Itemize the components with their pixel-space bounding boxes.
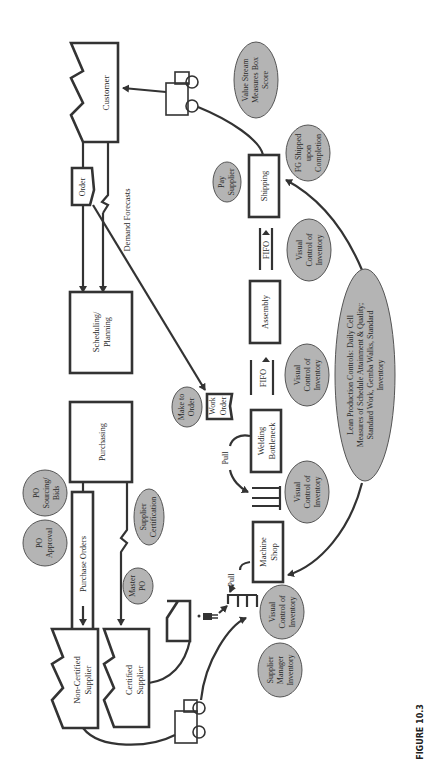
- svg-text:Assembly: Assembly: [260, 294, 270, 329]
- order-box: Order: [72, 168, 94, 205]
- svg-text:Visual: Visual: [295, 239, 304, 260]
- svg-text:Measures of Schedule Attainmen: Measures of Schedule Attainment & Qualit…: [356, 303, 365, 448]
- make-to-order-oval: Make to Order: [172, 387, 202, 427]
- svg-text:Inventory: Inventory: [313, 359, 322, 390]
- fg-shipped-oval: FG Shipped upon Completion: [286, 125, 330, 181]
- purchasing-box: Purchasing: [70, 402, 132, 482]
- machine-shop-box: Machine Shop: [253, 522, 283, 582]
- svg-text:Standard Work, Gemba Walks, St: Standard Work, Gemba Walks, Standard: [366, 310, 375, 439]
- master-po-line: [121, 482, 127, 625]
- svg-text:Control of: Control of: [305, 233, 314, 266]
- svg-text:Shipping: Shipping: [259, 170, 269, 201]
- svg-text:Work: Work: [208, 397, 217, 415]
- visual-control-oval-1: Visual Control of Inventory: [287, 219, 331, 281]
- kanban-post-icon: [167, 601, 190, 641]
- svg-text:Inventory: Inventory: [288, 596, 297, 627]
- svg-text:Lean Production Controls: Dail: Lean Production Controls: Daily Cell: [346, 314, 355, 435]
- svg-text:Scheduling/: Scheduling/: [91, 311, 101, 352]
- master-po-oval: Master PO: [123, 568, 153, 604]
- truck-icon: [166, 72, 198, 115]
- svg-text:Score: Score: [261, 70, 270, 89]
- svg-text:Purchase Orders: Purchase Orders: [78, 536, 88, 592]
- svg-text:Inventory: Inventory: [376, 359, 385, 390]
- po-sourcing-oval: PO Sourcing/ Bids: [23, 470, 67, 516]
- svg-text:Welding: Welding: [256, 426, 266, 455]
- svg-text:Purchasing: Purchasing: [97, 422, 107, 461]
- svg-text:Master: Master: [128, 575, 137, 598]
- svg-text:PO: PO: [138, 581, 147, 591]
- svg-text:FIFO: FIFO: [261, 241, 271, 259]
- svg-text:Value Stream: Value Stream: [241, 58, 250, 102]
- svg-text:Supplier: Supplier: [266, 656, 275, 683]
- pull-label-2: Pull: [227, 573, 236, 587]
- pull-label-1: Pull: [221, 451, 230, 465]
- value-stream-map-diagram: Customer Order Demand Forecasts Scheduli…: [0, 0, 427, 772]
- svg-text:Visual: Visual: [293, 364, 302, 385]
- figure-caption: FIGURE 10.3: [416, 704, 425, 760]
- lean-production-controls-oval: Lean Production Controls: Daily Cell Mea…: [335, 269, 395, 481]
- truck-to-customer-arrow: [123, 88, 166, 92]
- svg-text:Control of: Control of: [278, 595, 287, 628]
- non-certified-supplier-factory: Non-Certified Supplier: [52, 629, 98, 728]
- svg-text:PO: PO: [35, 538, 44, 548]
- svg-text:Order: Order: [187, 397, 196, 416]
- supplier-managed-inventory-oval: Supplier Manager Inventory: [258, 643, 302, 697]
- svg-text:Shop: Shop: [269, 543, 279, 560]
- pay-supplier-oval: Pay Supplier: [213, 162, 241, 202]
- supplier-truck-icon: [175, 700, 205, 743]
- assembly-box: Assembly: [250, 281, 280, 343]
- fifo-lane-2: FIFO: [260, 228, 272, 270]
- visual-control-oval-4: Visual Control of Inventory: [260, 585, 304, 639]
- supermarket-icon-raw: [228, 595, 257, 607]
- svg-text:Bottleneck: Bottleneck: [267, 422, 277, 460]
- svg-text:Inventory: Inventory: [286, 654, 295, 685]
- svg-text:Machine: Machine: [258, 537, 268, 567]
- order-label: Order: [78, 177, 87, 196]
- svg-text:Inventory: Inventory: [313, 476, 322, 507]
- demand-forecasts-label: Demand Forecasts: [122, 188, 132, 251]
- svg-text:Supplier: Supplier: [135, 665, 145, 694]
- operator-icon: [198, 613, 219, 620]
- visual-control-oval-3: Visual Control of Inventory: [285, 461, 329, 523]
- svg-text:Planning: Planning: [102, 316, 112, 347]
- svg-text:Sourcing/: Sourcing/: [42, 477, 51, 509]
- svg-text:Completion: Completion: [314, 134, 323, 172]
- work-order-box: Work Order: [207, 394, 232, 419]
- svg-text:PO: PO: [32, 488, 41, 498]
- svg-text:Certified: Certified: [124, 664, 134, 695]
- svg-text:Visual: Visual: [293, 481, 302, 502]
- visual-control-oval-2: Visual Control of Inventory: [285, 344, 329, 406]
- svg-text:Measures Box: Measures Box: [251, 57, 260, 103]
- shipping-box: Shipping: [249, 155, 279, 217]
- truck-to-supermarket-arrow: [201, 618, 246, 700]
- supermarket-icon-wip: [252, 486, 280, 510]
- svg-text:Approval: Approval: [45, 527, 54, 558]
- svg-text:FIFO: FIFO: [258, 369, 268, 387]
- value-stream-measures-oval: Value Stream Measures Box Score: [234, 42, 278, 118]
- svg-text:Bids: Bids: [52, 486, 61, 501]
- svg-text:Manager: Manager: [276, 655, 285, 684]
- svg-text:Non-Certified: Non-Certified: [72, 655, 82, 703]
- welding-bottleneck-box: Welding Bottleneck: [251, 410, 281, 472]
- fifo-lane-1: FIFO: [251, 357, 273, 395]
- customer-label: Customer: [101, 75, 111, 110]
- svg-text:Order: Order: [219, 396, 228, 415]
- svg-text:Supplier: Supplier: [227, 168, 236, 195]
- svg-text:Supplier: Supplier: [83, 665, 93, 694]
- svg-text:Control of: Control of: [303, 475, 312, 508]
- po-approval-oval: PO Approval: [23, 520, 67, 566]
- scheduling-planning-box: Scheduling/ Planning: [70, 292, 132, 373]
- svg-text:Visual: Visual: [268, 601, 277, 622]
- svg-text:Pay: Pay: [217, 176, 226, 188]
- customer-factory: Customer: [71, 43, 118, 142]
- demand-forecast-bolt: [102, 170, 108, 213]
- supplier-certification-oval: Supplier Certification: [134, 489, 164, 545]
- svg-text:Control of: Control of: [303, 358, 312, 391]
- svg-text:Make to: Make to: [177, 394, 186, 420]
- svg-text:upon: upon: [304, 145, 313, 161]
- svg-text:Inventory: Inventory: [315, 234, 324, 265]
- svg-text:FG Shipped: FG Shipped: [294, 134, 303, 172]
- svg-text:Supplier: Supplier: [139, 503, 148, 530]
- svg-text:Certification: Certification: [149, 497, 158, 537]
- certified-supplier-factory: Certified Supplier: [104, 629, 149, 727]
